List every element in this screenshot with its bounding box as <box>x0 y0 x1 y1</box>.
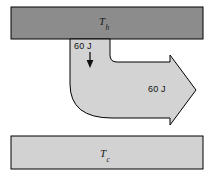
heat-flow-arrow <box>70 39 196 125</box>
cold-reservoir-label: Tc <box>100 148 109 162</box>
heat-flow-diagram: Th Tc 60 J 60 J <box>0 0 211 176</box>
cold-reservoir-subscript: c <box>106 155 109 164</box>
hot-reservoir-label: Th <box>99 16 109 30</box>
heat-out-label: 60 J <box>148 85 166 94</box>
heat-in-label: 60 J <box>74 42 92 51</box>
hot-reservoir-subscript: h <box>105 23 109 32</box>
